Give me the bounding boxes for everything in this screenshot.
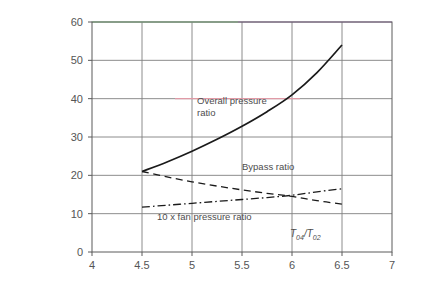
x-axis-ticks xyxy=(92,252,392,256)
pressure-ratio-line-chart: 44.555.566.57 0102030405060 Overall pres… xyxy=(0,0,432,284)
x-tick-label-4-5: 4.5 xyxy=(134,259,149,271)
y-tick-label-30: 30 xyxy=(71,131,83,143)
y-tick-label-40: 40 xyxy=(71,93,83,105)
axis-label-sub-02: 02 xyxy=(313,234,321,241)
fan-pressure-ratio-annotation: 10 x fan pressure ratio xyxy=(157,211,252,222)
y-axis-ticks xyxy=(88,22,92,252)
x-tick-label-6: 6 xyxy=(289,259,295,271)
x-tick-label-5-5: 5.5 xyxy=(234,259,249,271)
x-tick-label-5: 5 xyxy=(189,259,195,271)
x-tick-label-4: 4 xyxy=(89,259,95,271)
y-tick-label-20: 20 xyxy=(71,169,83,181)
x-tick-label-6-5: 6.5 xyxy=(334,259,349,271)
y-tick-label-0: 0 xyxy=(77,246,83,258)
y-tick-label-60: 60 xyxy=(71,16,83,28)
chart-container: 44.555.566.57 0102030405060 Overall pres… xyxy=(0,0,432,284)
y-axis-tick-labels: 0102030405060 xyxy=(71,16,83,258)
bypass-ratio-annotation: Bypass ratio xyxy=(242,161,294,172)
axis-label-sub-04: 04 xyxy=(296,234,304,241)
x-tick-label-7: 7 xyxy=(389,259,395,271)
y-tick-label-50: 50 xyxy=(71,54,83,66)
x-axis-tick-labels: 44.555.566.57 xyxy=(89,259,395,271)
y-tick-label-10: 10 xyxy=(71,208,83,220)
